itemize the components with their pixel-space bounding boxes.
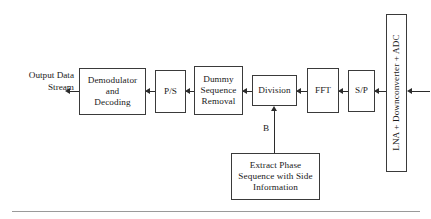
block-demodulator-label: Demodulator and Decoding [81,75,144,109]
block-extract-phase-sequence[interactable]: Extract Phase Sequence with Side Informa… [231,153,320,200]
block-ps-label: P/S [157,86,184,97]
arrowhead-input-to-frontend [407,88,412,94]
block-sp-label: S/P [350,85,373,96]
block-fft-label: FFT [309,85,337,96]
block-lna-downconverter-adc-label: LNA + Downconverter + ADC [392,35,401,151]
block-fft[interactable]: FFT [307,68,339,113]
arrowhead-demodulator-to-output [65,88,70,94]
block-demodulator-and-decoding[interactable]: Demodulator and Decoding [79,68,146,115]
block-division-label: Division [254,85,295,96]
connector-input-to-frontend [412,91,430,92]
block-sp[interactable]: S/P [348,70,375,112]
footer-divider [12,211,420,212]
block-diagram: Output Data Stream B Demodulator and Dec… [0,0,431,219]
block-lna-downconverter-adc[interactable]: LNA + Downconverter + ADC [386,14,407,172]
arrowhead-extract-to-division [271,106,277,111]
block-division[interactable]: Division [252,75,297,106]
block-dummy-sequence-removal[interactable]: Dummy Sequence Removal [194,66,243,115]
block-ps[interactable]: P/S [155,70,186,113]
block-dummy-sequence-removal-label: Dummy Sequence Removal [196,74,241,108]
connector-extract-to-division [274,110,275,153]
block-extract-phase-sequence-label: Extract Phase Sequence with Side Informa… [233,160,318,194]
feedback-edge-label: B [263,124,269,133]
